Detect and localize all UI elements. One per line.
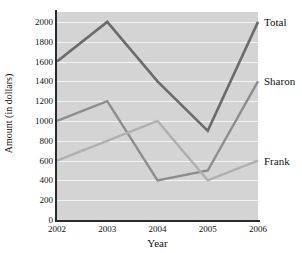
series-label-sharon: Sharon xyxy=(264,75,295,87)
x-tick-label: 2006 xyxy=(238,224,278,235)
series-line-sharon xyxy=(57,81,258,180)
x-tick-label: 2003 xyxy=(87,224,127,235)
y-axis-line xyxy=(55,10,57,222)
x-tick-label: 2002 xyxy=(37,224,77,235)
x-axis-line xyxy=(55,220,260,222)
series-lines-group xyxy=(57,12,258,220)
x-tick-label: 2005 xyxy=(188,224,228,235)
x-axis-tick-labels: 20022003200420052006 xyxy=(0,224,302,238)
x-tick-label: 2004 xyxy=(138,224,178,235)
y-tick-label: 200 xyxy=(5,196,53,205)
line-chart-figure: 0200400600800100012001400160018002000 20… xyxy=(0,0,302,253)
y-tick-label: 400 xyxy=(5,176,53,185)
series-label-total: Total xyxy=(264,16,286,28)
y-tick-label: 2000 xyxy=(5,18,53,27)
series-line-total xyxy=(57,22,258,131)
plot-area xyxy=(57,12,258,220)
y-axis-title: Amount (in dollars) xyxy=(3,54,14,174)
series-line-frank xyxy=(57,121,258,180)
series-label-frank: Frank xyxy=(264,155,290,167)
y-tick-label: 1800 xyxy=(5,38,53,47)
x-axis-title: Year xyxy=(57,237,258,249)
